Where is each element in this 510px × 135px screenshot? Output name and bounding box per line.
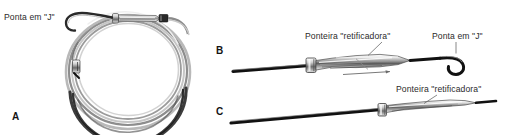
panel-letter-b: B xyxy=(216,45,223,56)
label-panel-a-j-tip: Ponta em "J" xyxy=(4,13,55,22)
guidewire-shaft-c xyxy=(231,110,382,124)
coiled-guidewire-icon xyxy=(66,12,190,135)
guidewire-shaft-b xyxy=(233,66,310,72)
leader-line-b-straightener xyxy=(368,42,382,56)
guidewire-tip-c xyxy=(476,101,496,103)
label-panel-c-straightener: Ponteira "retificadora" xyxy=(396,85,481,94)
straightener-body-c-icon xyxy=(387,100,477,113)
figure-artwork xyxy=(0,0,510,135)
j-hook-tip-b-icon xyxy=(440,56,464,74)
panel-b-guidewire-with-straightener xyxy=(233,42,464,75)
guidewire-distal-b xyxy=(410,58,440,60)
panel-c-straightened-guidewire xyxy=(231,95,496,123)
straightener-collar-c-icon xyxy=(378,104,387,117)
panel-letter-c: C xyxy=(216,106,223,117)
panel-letter-a: A xyxy=(12,111,19,122)
direction-arrow-b-icon xyxy=(343,70,390,74)
panel-a-coiled-guidewire xyxy=(66,12,190,135)
straightener-body-b-icon xyxy=(316,54,410,70)
label-panel-b-j-tip: Ponta em "J" xyxy=(432,32,483,41)
medical-guidewire-figure: Ponta em "J" A B Ponteira "retificadora"… xyxy=(0,0,510,135)
straightener-collar-b-icon xyxy=(306,58,316,73)
label-panel-b-straightener: Ponteira "retificadora" xyxy=(305,32,390,41)
